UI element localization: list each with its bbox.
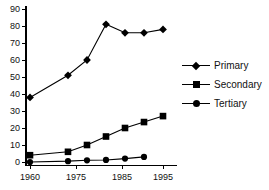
legend-label: Primary	[210, 61, 248, 71]
square-marker-icon	[182, 79, 210, 91]
data-point-primary	[159, 26, 167, 34]
data-point-primary	[26, 94, 34, 102]
data-point-tertiary	[122, 156, 128, 162]
x-tick-label: 1975	[59, 173, 93, 182]
data-point-secondary	[141, 119, 148, 126]
x-tick-label: 1985	[105, 173, 139, 182]
data-point-tertiary	[141, 154, 147, 160]
legend-item-secondary[interactable]: Secondary	[182, 75, 262, 94]
legend-item-tertiary[interactable]: Tertiary	[182, 94, 262, 113]
data-point-primary	[121, 29, 129, 37]
x-tick-label: 1960	[13, 173, 47, 182]
legend-label: Tertiary	[210, 99, 247, 109]
x-tick-label: 1995	[146, 173, 180, 182]
data-point-secondary	[84, 142, 91, 149]
legend-item-primary[interactable]: Primary	[182, 56, 262, 75]
data-point-primary	[102, 20, 110, 28]
legend-label: Secondary	[210, 80, 262, 90]
diamond-marker-icon	[182, 60, 210, 72]
data-point-secondary	[103, 133, 110, 140]
data-point-secondary	[122, 125, 129, 132]
data-point-secondary	[27, 152, 34, 159]
data-point-tertiary	[65, 158, 71, 164]
circle-marker-icon	[182, 98, 210, 110]
line-chart: 90 80 70 60 50 40 30 20 10 0 1960	[0, 0, 269, 190]
data-point-secondary	[65, 149, 72, 156]
data-point-tertiary	[84, 157, 90, 163]
data-point-tertiary	[27, 159, 33, 165]
chart-legend: Primary Secondary Tertiary	[182, 56, 262, 113]
data-point-primary	[140, 29, 148, 37]
data-point-secondary	[160, 113, 167, 120]
data-point-tertiary	[103, 157, 109, 163]
